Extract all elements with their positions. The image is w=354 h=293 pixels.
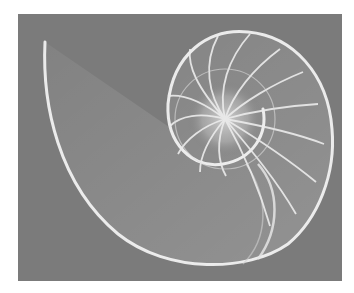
nautilus-photo	[18, 14, 342, 281]
nautilus-shell-illustration	[18, 14, 342, 281]
